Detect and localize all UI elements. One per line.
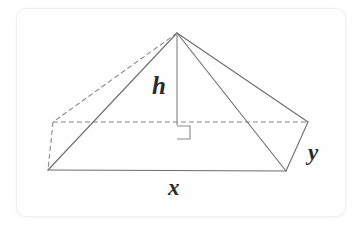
edge-apex-to-front-left bbox=[48, 33, 177, 170]
edge-front-right-to-back-right bbox=[286, 122, 308, 171]
solid-visible-edges bbox=[48, 33, 308, 171]
edge-back-left-to-front-left bbox=[48, 122, 53, 170]
edge-front-left-to-front-right bbox=[48, 170, 286, 171]
diagram-stage: h x y bbox=[0, 0, 360, 226]
edge-apex-to-back-right bbox=[177, 33, 308, 122]
right-angle-square bbox=[177, 126, 190, 139]
base-width-label: y bbox=[308, 141, 318, 164]
base-length-label: x bbox=[168, 176, 180, 199]
edge-apex-to-front-right bbox=[177, 33, 286, 171]
height-label: h bbox=[152, 73, 166, 98]
pyramid-figure bbox=[0, 0, 360, 226]
